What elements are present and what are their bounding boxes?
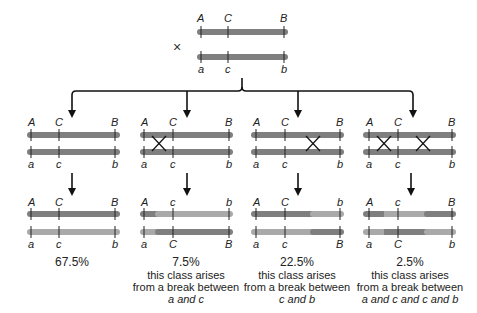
arrow-down-icon xyxy=(183,188,191,196)
note-line: this class arises xyxy=(350,269,470,281)
note-genes: c and b xyxy=(237,293,357,305)
gene-label: a xyxy=(28,238,34,250)
gene-label: B xyxy=(448,196,455,208)
class-frequency-parental: 67.5% xyxy=(12,256,132,269)
gene-label: c xyxy=(225,63,231,75)
gene-label: c xyxy=(56,238,62,250)
arrow-down-icon xyxy=(68,188,76,196)
gene-label: b xyxy=(449,158,455,170)
gene-label: A xyxy=(252,116,260,128)
gene-label: c xyxy=(395,158,401,170)
arrow-down-icon xyxy=(407,188,415,196)
gene-label: C xyxy=(224,12,232,24)
product-pair-double-recombinant: A c B a C b xyxy=(365,196,455,250)
parental-chromosome-bottom: a c b xyxy=(198,51,287,75)
arrow-down-icon xyxy=(68,110,76,118)
percent-value: 22.5% xyxy=(237,256,357,268)
gene-label: B xyxy=(280,12,287,24)
gene-label: B xyxy=(111,116,118,128)
gene-label: C xyxy=(281,196,289,208)
gene-label: A xyxy=(27,116,35,128)
gene-label: B xyxy=(111,196,118,208)
branch-arrowheads xyxy=(68,110,417,118)
gene-label: a xyxy=(28,158,34,170)
note-line: this class arises xyxy=(237,269,357,281)
gene-label: b xyxy=(337,158,343,170)
gene-label: a xyxy=(253,238,259,250)
gene-label: C xyxy=(394,238,402,250)
note-genes: a and c and c and b xyxy=(350,293,470,305)
arrow-down-icon xyxy=(409,110,417,118)
gene-label: b xyxy=(112,158,118,170)
gene-label: c xyxy=(170,158,176,170)
gene-label: A xyxy=(140,116,148,128)
gene-label: a xyxy=(141,238,147,250)
gene-label: c xyxy=(282,238,288,250)
gene-label: C xyxy=(55,116,63,128)
result-arrows xyxy=(72,173,411,190)
gene-label: A xyxy=(27,196,35,208)
gene-label: A xyxy=(252,196,260,208)
gene-label: C xyxy=(169,238,177,250)
class-frequency-c-b: 22.5% this class arises from a break bet… xyxy=(237,256,357,305)
gene-label: a xyxy=(366,158,372,170)
gene-label: B xyxy=(225,238,232,250)
gene-label: a xyxy=(253,158,259,170)
gene-label: b xyxy=(449,238,455,250)
gene-label: b xyxy=(226,158,232,170)
gene-label: A xyxy=(140,196,148,208)
gene-label: C xyxy=(169,116,177,128)
gene-label: C xyxy=(55,196,63,208)
arrow-down-icon xyxy=(294,110,302,118)
gene-label: a xyxy=(366,238,372,250)
note-line: this class arises xyxy=(126,269,246,281)
note-line: from a break between xyxy=(126,281,246,293)
note-genes: a and c xyxy=(126,293,246,305)
arrow-down-icon xyxy=(294,188,302,196)
gene-label: c xyxy=(282,158,288,170)
gene-label: b xyxy=(226,196,232,208)
note-line: from a break between xyxy=(237,281,357,293)
gene-label: B xyxy=(448,116,455,128)
parental-chromosome-top: A C B xyxy=(196,12,287,38)
branch-connector xyxy=(72,78,413,112)
note-line: from a break between xyxy=(350,281,470,293)
gene-label: B xyxy=(336,238,343,250)
gene-label: A xyxy=(365,196,373,208)
gene-label: a xyxy=(198,63,204,75)
meiosis-pair-no-crossover: A C B a c b xyxy=(27,116,118,170)
gene-label: C xyxy=(394,116,402,128)
gene-label: A xyxy=(196,12,204,24)
meiosis-pair-crossover-a-c: A C B a c b xyxy=(140,116,232,170)
gene-label: A xyxy=(365,116,373,128)
gene-label: B xyxy=(336,116,343,128)
product-pair-recombinant-a-c: A c b a C B xyxy=(140,196,232,250)
gene-label: b xyxy=(337,196,343,208)
percent-value: 7.5% xyxy=(126,256,246,268)
percent-value: 67.5% xyxy=(12,256,132,268)
gene-label: b xyxy=(112,238,118,250)
arrow-down-icon xyxy=(183,110,191,118)
gene-label: B xyxy=(225,116,232,128)
product-pair-recombinant-c-b: A C b a c B xyxy=(252,196,343,250)
gene-label: a xyxy=(141,158,147,170)
gene-label: b xyxy=(281,63,287,75)
percent-value: 2.5% xyxy=(350,256,470,268)
gene-label: c xyxy=(170,196,176,208)
gene-label: c xyxy=(395,196,401,208)
product-pair-parental: A C B a c b xyxy=(27,196,118,250)
cross-symbol: × xyxy=(173,39,181,55)
class-frequency-double: 2.5% this class arises from a break betw… xyxy=(350,256,470,305)
gene-label: C xyxy=(281,116,289,128)
gene-label: c xyxy=(56,158,62,170)
class-frequency-a-c: 7.5% this class arises from a break betw… xyxy=(126,256,246,305)
meiosis-pair-crossover-c-b: A C B a c b xyxy=(252,116,343,170)
meiosis-pair-double-crossover: A C B a c b xyxy=(365,116,455,170)
